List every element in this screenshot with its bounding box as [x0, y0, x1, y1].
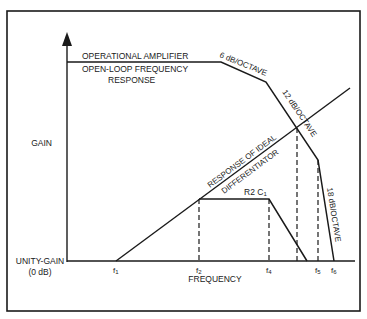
axis-arrow-icon	[62, 32, 72, 46]
f6-label: f6	[331, 266, 337, 275]
frequency-label: FREQUENCY	[188, 274, 242, 284]
open-loop-label-3: RESPONSE	[108, 75, 156, 85]
f5-label: f5	[315, 266, 321, 275]
gain-label: GAIN	[31, 138, 52, 148]
open-loop-label-2: OPEN-LOOP FREQUENCY	[82, 64, 188, 74]
unity-gain-label: UNITY-GAIN	[16, 256, 64, 266]
ideal-differentiator-line	[116, 88, 350, 261]
open-loop-response-curve	[67, 62, 334, 261]
practical-response-curve	[199, 199, 307, 261]
r2c1-label: R2 C1	[244, 187, 267, 197]
differentiator-gain-diagram: GAIN UNITY-GAIN (0 dB) OPERATIONAL AMPLI…	[0, 0, 367, 319]
zero-db-label: (0 dB)	[28, 267, 51, 277]
open-loop-label-1: OPERATIONAL AMPLIFIER	[82, 51, 188, 61]
f4-label: f4	[266, 266, 272, 275]
slope-18-label: 18 dB/OCTAVE	[325, 187, 342, 243]
f1-label: f1	[113, 266, 119, 275]
